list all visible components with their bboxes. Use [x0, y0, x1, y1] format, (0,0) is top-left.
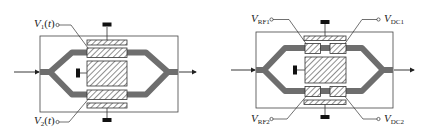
right-top-ground-electrode [304, 36, 346, 41]
label-v-dc2: VDC2 [384, 113, 404, 126]
right-modulator [231, 18, 414, 121]
left-top-signal-electrode [87, 48, 127, 58]
right-bottom-rf-electrode [305, 87, 321, 97]
left-top-ground-icon [103, 23, 112, 41]
left-center-ground-icon [76, 69, 87, 78]
right-rf2-lead [270, 97, 306, 121]
modulator-diagrams [0, 0, 427, 135]
left-bottom-ground-electrode [87, 103, 127, 108]
left-top-ground-electrode [87, 40, 127, 45]
left-bottom-ground-icon [103, 108, 112, 122]
right-center-ground-icon [293, 66, 305, 75]
label-v-rf2: VRF2 [251, 113, 270, 126]
left-modulator [14, 23, 196, 124]
right-dc2-lead [345, 97, 380, 121]
label-v-dc1: VDC1 [384, 13, 404, 26]
right-bottom-ground-icon [321, 105, 330, 120]
label-v1: V1(t) [34, 18, 55, 31]
label-v-rf1: VRF1 [251, 13, 270, 26]
left-center-ground-electrode [87, 61, 127, 86]
right-center-ground-electrode [305, 57, 346, 83]
right-top-rf-electrode [305, 44, 321, 54]
right-bottom-ground-electrode [304, 100, 346, 105]
right-rf1-lead [270, 18, 306, 44]
right-top-dc-electrode [330, 44, 346, 54]
label-v2: V2(t) [34, 115, 55, 128]
left-bottom-signal-electrode [87, 90, 127, 100]
right-dc1-lead [345, 18, 380, 44]
right-top-ground-icon [321, 20, 330, 36]
right-bottom-dc-electrode [330, 87, 346, 97]
left-v2-lead [56, 100, 88, 124]
